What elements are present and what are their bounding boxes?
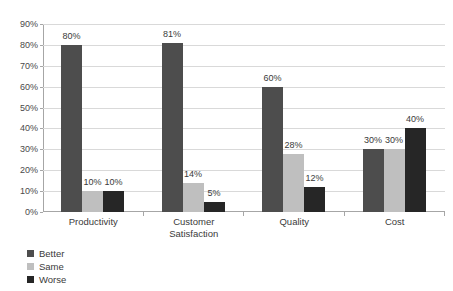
bar[interactable]: 40%: [405, 128, 426, 212]
x-axis-category-label: Productivity: [43, 216, 144, 228]
y-axis-tick-label: 60%: [0, 83, 38, 92]
bar-value-label: 10%: [83, 178, 101, 187]
bar-group: 81%14%5%: [144, 24, 245, 212]
y-axis-tick-label: 10%: [0, 187, 38, 196]
y-axis-tick-label: 30%: [0, 145, 38, 154]
bar-rect: [103, 191, 124, 212]
bar-value-label: 28%: [284, 141, 302, 150]
bar-rect: [262, 87, 283, 212]
legend-label: Better: [39, 249, 64, 259]
x-axis-labels: ProductivityCustomerSatisfactionQualityC…: [43, 216, 445, 246]
bar-chart: 0%10%20%30%40%50%60%70%80%90% 80%10%10%8…: [0, 0, 453, 291]
bar-group-bars: 60%28%12%: [262, 24, 325, 212]
bar-rect: [183, 183, 204, 212]
bar-value-label: 10%: [104, 178, 122, 187]
bar-value-label: 30%: [364, 136, 382, 145]
bar-group: 60%28%12%: [244, 24, 345, 212]
bar-rect: [363, 149, 384, 212]
legend-swatch-icon: [27, 276, 34, 283]
bar-rect: [283, 154, 304, 212]
bar-rect: [304, 187, 325, 212]
y-axis-tick-label: 90%: [0, 20, 38, 29]
bar-rect: [384, 149, 405, 212]
bar-value-label: 14%: [184, 170, 202, 179]
x-axis-category-label: CustomerSatisfaction: [144, 216, 245, 239]
legend-item[interactable]: Better: [27, 247, 66, 260]
bar-group: 30%30%40%: [345, 24, 446, 212]
x-axis-category-label-line: Customer: [144, 216, 245, 228]
bar-rect: [405, 128, 426, 212]
y-axis-tick-label: 70%: [0, 62, 38, 71]
y-axis-tick-label: 40%: [0, 124, 38, 133]
bar[interactable]: 30%: [363, 149, 384, 212]
x-axis-category-label-line: Satisfaction: [144, 228, 245, 240]
bar[interactable]: 81%: [162, 43, 183, 212]
bar-value-label: 30%: [385, 136, 403, 145]
legend-swatch-icon: [27, 263, 34, 270]
legend-label: Worse: [39, 275, 66, 285]
bar[interactable]: 60%: [262, 87, 283, 212]
legend-item[interactable]: Worse: [27, 273, 66, 286]
y-axis-tick-label: 20%: [0, 166, 38, 175]
y-axis-tick-mark: [40, 212, 43, 213]
bar-value-label: 40%: [406, 115, 424, 124]
bar[interactable]: 10%: [82, 191, 103, 212]
bar-value-label: 12%: [305, 174, 323, 183]
bar-group-bars: 81%14%5%: [162, 24, 225, 212]
bar-value-label: 5%: [207, 189, 220, 198]
bar-group: 80%10%10%: [43, 24, 144, 212]
bar-rect: [61, 45, 82, 212]
bar[interactable]: 10%: [103, 191, 124, 212]
bar[interactable]: 80%: [61, 45, 82, 212]
bar-rect: [204, 202, 225, 212]
bar[interactable]: 5%: [204, 202, 225, 212]
y-axis-tick-label: 0%: [0, 208, 38, 217]
y-axis-tick-label: 50%: [0, 104, 38, 113]
x-axis-category-label-line: Productivity: [43, 216, 144, 228]
bar[interactable]: 14%: [183, 183, 204, 212]
bar-value-label: 81%: [163, 30, 181, 39]
bar-group-bars: 80%10%10%: [61, 24, 124, 212]
legend-swatch-icon: [27, 250, 34, 257]
x-axis-category-label-line: Quality: [244, 216, 345, 228]
x-axis-category-label: Quality: [244, 216, 345, 228]
bar-rect: [82, 191, 103, 212]
chart-legend: BetterSameWorse: [27, 247, 66, 286]
legend-label: Same: [39, 262, 64, 272]
bar[interactable]: 28%: [283, 154, 304, 212]
y-axis-tick-label: 80%: [0, 41, 38, 50]
y-axis-labels: 0%10%20%30%40%50%60%70%80%90%: [0, 24, 38, 212]
x-axis-category-label-line: Cost: [345, 216, 446, 228]
bar-group-bars: 30%30%40%: [363, 24, 426, 212]
legend-item[interactable]: Same: [27, 260, 66, 273]
bar-value-label: 80%: [62, 32, 80, 41]
bar-rect: [162, 43, 183, 212]
plot-area: 80%10%10%81%14%5%60%28%12%30%30%40%: [43, 24, 445, 212]
bar[interactable]: 12%: [304, 187, 325, 212]
bar[interactable]: 30%: [384, 149, 405, 212]
bar-value-label: 60%: [263, 74, 281, 83]
x-axis-category-label: Cost: [345, 216, 446, 228]
